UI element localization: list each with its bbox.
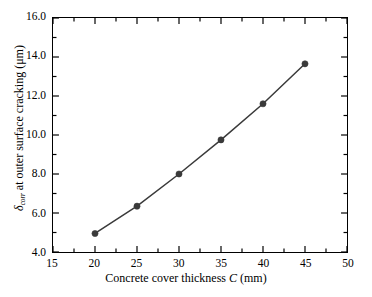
x-tick-label: 40 (243, 258, 283, 270)
y-axis-title-symbol: δ (12, 205, 26, 211)
data-point-marker (92, 230, 98, 236)
data-point-marker (134, 203, 140, 209)
x-axis-title: Concrete cover thickness C (mm) (0, 271, 372, 286)
x-tick-label: 35 (201, 258, 241, 270)
data-point-markers (92, 61, 308, 237)
data-point-marker (302, 61, 308, 67)
data-point-marker (218, 137, 224, 143)
plot-area (52, 17, 348, 253)
x-axis-title-prefix: Concrete cover thickness (105, 271, 229, 285)
x-tick-label: 20 (74, 258, 114, 270)
axis-ticks (53, 18, 347, 252)
x-tick-label: 25 (117, 258, 157, 270)
data-point-marker (176, 171, 182, 177)
y-axis-title-subscript: corr (18, 193, 27, 205)
x-tick-label: 45 (286, 258, 326, 270)
x-axis-title-suffix: (mm) (237, 271, 267, 285)
x-tick-label: 30 (159, 258, 199, 270)
plot-canvas (53, 18, 347, 252)
data-series-line (95, 64, 305, 234)
chart-figure: 4.06.08.010.012.014.016.0 15202530354045… (0, 0, 372, 297)
data-point-marker (260, 101, 266, 107)
y-axis-title: δcorr at outer surface cracking (μm) (12, 3, 32, 253)
x-tick-label: 50 (328, 258, 368, 270)
x-tick-label: 15 (32, 258, 72, 270)
x-axis-title-variable: C (229, 271, 237, 285)
y-axis-title-rest: at outer surface cracking (μm) (12, 45, 26, 193)
